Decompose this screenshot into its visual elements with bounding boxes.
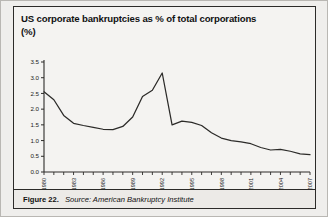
y-tick-label: 0.5 [30,152,39,159]
y-tick-label: 3.5 [30,58,39,65]
caption: Figure 22.Source: American Bankruptcy In… [23,195,194,204]
figure-source: Source: American Bankruptcy Institute [65,195,194,204]
data-line [44,73,310,155]
y-tick-label: 2.5 [30,90,39,97]
y-tick-label: 3.0 [30,74,39,81]
y-tick-label: 1.5 [30,121,39,128]
figure-container: US corporate bankruptcies as % of total … [0,0,328,217]
data-series-group [44,73,310,155]
y-tick-label: 0.0 [30,168,39,175]
y-tick-label: 2.0 [30,105,39,112]
x-axis: 1980198319861989199219951998200120042007 [41,172,313,190]
line-chart-svg: 0.00.51.01.52.02.53.03.5 198019831986198… [13,6,316,209]
y-tick-label: 1.0 [30,137,39,144]
plot-area: 0.00.51.01.52.02.53.03.5 198019831986198… [13,6,316,209]
figure-number: Figure 22. [23,195,59,204]
y-axis: 0.00.51.01.52.02.53.03.5 [30,58,44,175]
